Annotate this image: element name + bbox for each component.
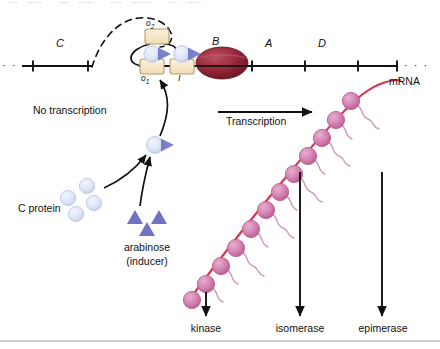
arrow-cprotein-to-dimer	[104, 155, 146, 188]
arabinose-molecules	[127, 210, 167, 236]
c-protein-bound-left	[144, 46, 171, 62]
operator-box-o2	[145, 29, 169, 44]
no-transcription-label: No transcription	[33, 105, 107, 116]
figure-canvas: · · · · · · C B A D o2 o1 I No transcrip…	[0, 0, 440, 349]
gene-label-c: C	[56, 38, 64, 49]
c-protein-monomers	[60, 178, 101, 221]
product-label-isomerase: isomerase	[265, 323, 335, 334]
operator-label-o2: o2	[146, 19, 154, 30]
dna-ellipsis-left: · · ·	[2, 60, 27, 71]
c-protein-dimer-free	[147, 137, 174, 154]
inducer-label: (inducer)	[110, 256, 184, 267]
product-label-kinase: kinase	[176, 323, 236, 334]
gene-label-d: D	[318, 38, 326, 49]
c-protein-label: C protein	[18, 203, 61, 214]
arrow-arabinose-to-dimer	[140, 157, 150, 206]
mrna-label: mRNA	[389, 76, 420, 87]
arrow-dimer-to-operator	[160, 80, 168, 136]
product-label-epimerase: epimerase	[347, 323, 419, 334]
transcription-label: Transcription	[226, 116, 286, 127]
diagram-vector-layer	[0, 0, 440, 349]
arabinose-label: arabinose	[110, 242, 184, 253]
gene-label-a: A	[265, 38, 272, 49]
dna-ellipsis-right: · · ·	[404, 60, 429, 71]
gene-label-b: B	[212, 36, 219, 47]
rna-polymerase	[196, 47, 248, 79]
operator-label-o1-sub: 1	[146, 78, 150, 85]
promoter-label-i: I	[178, 74, 181, 83]
operator-label-o2-sub: 2	[151, 23, 155, 30]
operator-label-o1: o1	[141, 74, 149, 85]
